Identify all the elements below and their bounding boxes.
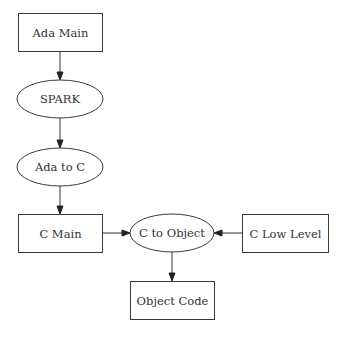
edge-ada_main-to-spark — [57, 51, 63, 80]
node-label: SPARK — [40, 92, 81, 106]
arrowhead-icon — [57, 206, 63, 214]
arrowhead-icon — [214, 230, 222, 236]
arrowhead-icon — [122, 230, 130, 236]
node-label: C to Object — [139, 226, 205, 240]
edge-c_low_level-to-c_to_object — [214, 230, 242, 236]
node-ada-main: Ada Main — [19, 14, 103, 52]
node-c-low-level: C Low Level — [243, 215, 329, 253]
node-label: Ada to C — [34, 160, 85, 174]
node-object-code: Object Code — [131, 282, 215, 320]
arrowhead-icon — [57, 72, 63, 80]
node-c-main: C Main — [19, 215, 103, 253]
node-label: C Low Level — [250, 227, 322, 241]
arrowhead-icon — [57, 140, 63, 148]
node-label: Ada Main — [32, 26, 89, 40]
edge-c_to_object-to-object_code — [169, 252, 175, 281]
flowchart-canvas: Ada MainSPARKAda to CC MainC to ObjectC … — [0, 0, 343, 339]
node-label: C Main — [39, 227, 82, 241]
node-label: Object Code — [137, 294, 209, 308]
arrowhead-icon — [169, 273, 175, 281]
node-c-to-object: C to Object — [130, 214, 214, 252]
edge-ada_to_c-to-c_main — [57, 186, 63, 214]
edge-c_main-to-c_to_object — [102, 230, 130, 236]
node-ada-to-c: Ada to C — [17, 148, 103, 186]
node-spark: SPARK — [17, 80, 103, 118]
edge-spark-to-ada_to_c — [57, 118, 63, 148]
